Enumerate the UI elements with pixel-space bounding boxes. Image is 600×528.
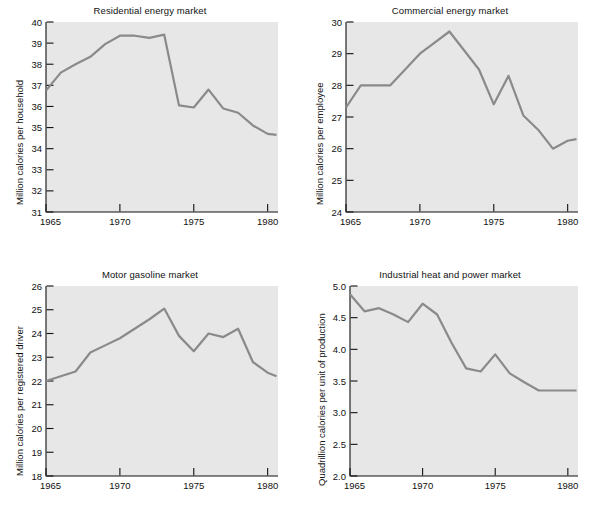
x-tick-label: 1980 (257, 480, 278, 491)
y-tick-label: 25 (31, 304, 42, 315)
chart-svg: 313233343536373839401965197019751980 (0, 0, 300, 264)
x-tick-label: 1970 (409, 216, 430, 227)
y-tick-label: 35 (31, 122, 42, 133)
y-tick-label: 4.0 (333, 344, 346, 355)
x-tick-label: 1975 (483, 216, 504, 227)
x-tick-label: 1970 (109, 216, 130, 227)
y-tick-label: 3.0 (333, 407, 346, 418)
x-tick-label: 1975 (485, 480, 506, 491)
axis-lines (46, 286, 278, 476)
x-tick-label: 1970 (412, 480, 433, 491)
y-tick-label: 26 (31, 281, 42, 292)
y-tick-label: 22 (31, 376, 42, 387)
x-tick-label: 1965 (340, 216, 361, 227)
chart-panel-3: Motor gasoline marketMillion calories pe… (0, 264, 300, 528)
x-tick-label: 1980 (257, 216, 278, 227)
data-series-line (46, 309, 277, 381)
y-tick-label: 26 (331, 143, 342, 154)
y-tick-label: 29 (331, 48, 342, 59)
y-tick-label: 4.5 (333, 312, 346, 323)
data-series-line (346, 32, 577, 149)
y-tick-label: 20 (31, 423, 42, 434)
chart-svg: 2.02.53.03.54.04.55.01965197019751980 (300, 264, 600, 528)
y-tick-label: 39 (31, 38, 42, 49)
y-tick-label: 40 (31, 17, 42, 28)
x-tick-label: 1975 (183, 216, 204, 227)
chart-panel-1: Residential energy marketMillion calorie… (0, 0, 300, 264)
y-tick-label: 30 (331, 17, 342, 28)
chart-panel-2: Commercial energy marketMillion calories… (300, 0, 600, 264)
axis-lines (350, 286, 578, 476)
y-tick-label: 3.5 (333, 376, 346, 387)
x-tick-label: 1965 (40, 480, 61, 491)
x-tick-label: 1980 (557, 480, 578, 491)
x-tick-label: 1975 (183, 480, 204, 491)
y-tick-label: 24 (31, 328, 42, 339)
chart-svg: 242526272829301965197019751980 (300, 0, 600, 264)
data-series-line (46, 35, 277, 135)
y-tick-label: 32 (31, 185, 42, 196)
x-tick-label: 1980 (557, 216, 578, 227)
y-tick-label: 23 (31, 352, 42, 363)
y-tick-label: 28 (331, 80, 342, 91)
y-tick-label: 34 (31, 143, 42, 154)
y-tick-label: 19 (31, 447, 42, 458)
y-tick-label: 38 (31, 59, 42, 70)
y-tick-label: 33 (31, 164, 42, 175)
data-series-line (350, 294, 577, 390)
y-tick-label: 36 (31, 101, 42, 112)
chart-grid: Residential energy marketMillion calorie… (0, 0, 600, 528)
y-tick-label: 5.0 (333, 281, 346, 292)
x-tick-label: 1965 (40, 216, 61, 227)
chart-panel-4: Industrial heat and power marketQuadrill… (300, 264, 600, 528)
y-tick-label: 27 (331, 112, 342, 123)
y-tick-label: 37 (31, 80, 42, 91)
axis-lines (346, 22, 578, 212)
x-tick-label: 1965 (344, 480, 365, 491)
x-tick-label: 1970 (109, 480, 130, 491)
y-tick-label: 25 (331, 175, 342, 186)
y-tick-label: 2.5 (333, 439, 346, 450)
y-tick-label: 21 (31, 399, 42, 410)
chart-svg: 1819202122232425261965197019751980 (0, 264, 300, 528)
